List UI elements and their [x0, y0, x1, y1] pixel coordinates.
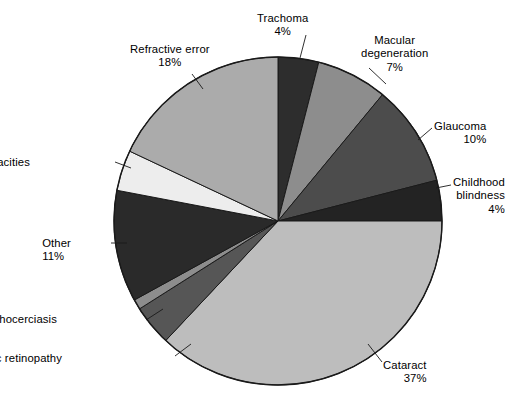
pie-label-name-diabetic-retinopathy: Diabetic retinopathy	[0, 352, 62, 365]
pie-label-value-cataract: 37%	[383, 372, 427, 385]
pie-label-glaucoma: Glaucoma10%	[434, 120, 486, 147]
pie-label-value-corneal-opacities: 4%	[0, 169, 30, 182]
pie-label-trachoma: Trachoma4%	[257, 12, 308, 39]
pie-label-childhood-blindness: Childhoodblindness4%	[453, 176, 505, 216]
pie-label-value-glaucoma: 10%	[434, 133, 486, 146]
pie-label-name-trachoma: Trachoma	[257, 12, 308, 25]
pie-label-name-refractive-error: Refractive error	[130, 43, 210, 56]
pie-label-value-other: 11%	[42, 250, 71, 263]
pie-label-corneal-opacities: Corneal opacities4%	[0, 156, 30, 183]
leader-line-glaucoma	[418, 128, 432, 140]
pie-label-name-childhood-blindness: Childhood	[453, 176, 505, 189]
pie-label-value-refractive-error: 18%	[130, 56, 210, 69]
pie-label-cataract: Cataract37%	[383, 359, 427, 386]
pie-label-value-diabetic-retinopathy: 4%	[0, 365, 62, 378]
pie-label-name-glaucoma: Glaucoma	[434, 120, 486, 133]
pie-chart-canvas	[0, 0, 524, 403]
pie-label-value-trachoma: 4%	[257, 25, 308, 38]
pie-label-name-other: Other	[42, 237, 71, 250]
pie-label-diabetic-retinopathy: Diabetic retinopathy4%	[0, 352, 62, 379]
pie-label-refractive-error: Refractive error18%	[130, 43, 210, 70]
pie-label-onchocerciasis: Onchocerciasis1%	[0, 313, 57, 340]
pie-label-name-childhood-blindness: blindness	[453, 189, 505, 202]
pie-label-other: Other11%	[42, 237, 71, 264]
pie-label-macular-degeneration: Maculardegeneration7%	[361, 34, 428, 74]
pie-label-value-macular-degeneration: 7%	[361, 61, 428, 74]
pie-label-name-macular-degeneration: Macular	[361, 34, 428, 47]
pie-label-value-onchocerciasis: 1%	[0, 326, 57, 339]
pie-label-name-corneal-opacities: Corneal opacities	[0, 156, 30, 169]
pie-label-name-cataract: Cataract	[383, 359, 427, 372]
pie-chart: Trachoma4%Maculardegeneration7%Glaucoma1…	[0, 0, 524, 403]
pie-label-name-macular-degeneration: degeneration	[361, 47, 428, 60]
pie-label-name-onchocerciasis: Onchocerciasis	[0, 313, 57, 326]
pie-label-value-childhood-blindness: 4%	[453, 203, 505, 216]
